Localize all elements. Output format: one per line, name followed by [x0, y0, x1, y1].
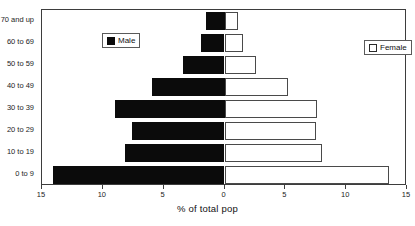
bar-row — [42, 98, 405, 120]
bar-female-70-and-up — [225, 12, 238, 30]
x-tick-mark — [406, 185, 407, 189]
y-axis-label-70-and-up: 70 and up — [1, 9, 34, 31]
bar-row — [42, 10, 405, 32]
bar-male-10-to-19 — [125, 144, 225, 162]
x-tick-label: 15 — [402, 190, 410, 199]
y-axis-label-10-to-19: 10 to 19 — [7, 141, 34, 163]
bar-male-60-to-69 — [201, 34, 224, 52]
x-axis-ticks: 15105051015 — [41, 185, 406, 190]
bar-female-10-to-19 — [225, 144, 322, 162]
x-tick-label: 15 — [37, 190, 45, 199]
bar-row — [42, 142, 405, 164]
bar-male-30-to-39 — [115, 100, 225, 118]
legend-male-swatch-icon — [107, 37, 115, 45]
y-axis-labels: 0 to 910 to 1920 to 2930 to 3940 to 4950… — [0, 9, 38, 185]
bar-male-50-to-59 — [183, 56, 224, 74]
y-axis-label-0-to-9: 0 to 9 — [15, 163, 34, 185]
plot-area: Male Female — [41, 9, 406, 185]
bar-female-20-to-29 — [225, 122, 316, 140]
x-tick-label: 0 — [221, 190, 225, 199]
x-tick-mark — [41, 185, 42, 189]
legend-female-swatch-icon — [369, 44, 377, 52]
bar-female-0-to-9 — [225, 166, 389, 184]
x-tick-label: 5 — [161, 190, 165, 199]
bar-male-70-and-up — [206, 12, 224, 30]
bar-rows — [42, 10, 405, 184]
x-tick-mark — [345, 185, 346, 189]
x-tick-label: 5 — [282, 190, 286, 199]
bar-row — [42, 32, 405, 54]
bar-row — [42, 54, 405, 76]
x-axis-title: % of total pop — [0, 203, 415, 214]
bar-female-60-to-69 — [225, 34, 243, 52]
x-tick-mark — [224, 185, 225, 189]
legend-male: Male — [102, 33, 140, 48]
bar-row — [42, 76, 405, 98]
population-pyramid-chart: 0 to 910 to 1920 to 2930 to 3940 to 4950… — [0, 0, 415, 226]
legend-male-label: Male — [118, 37, 135, 45]
bar-row — [42, 120, 405, 142]
x-tick-mark — [163, 185, 164, 189]
bar-female-30-to-39 — [225, 100, 317, 118]
y-axis-label-40-to-49: 40 to 49 — [7, 75, 34, 97]
x-tick-mark — [102, 185, 103, 189]
x-tick-label: 10 — [341, 190, 349, 199]
x-tick-label: 10 — [98, 190, 106, 199]
y-axis-label-20-to-29: 20 to 29 — [7, 119, 34, 141]
bar-male-0-to-9 — [53, 166, 225, 184]
bar-male-20-to-29 — [132, 122, 224, 140]
y-axis-label-30-to-39: 30 to 39 — [7, 97, 34, 119]
x-tick-mark — [284, 185, 285, 189]
y-axis-label-60-to-69: 60 to 69 — [7, 31, 34, 53]
bar-female-50-to-59 — [225, 56, 257, 74]
legend-female: Female — [364, 40, 412, 55]
y-axis-label-50-to-59: 50 to 59 — [7, 53, 34, 75]
bar-row — [42, 164, 405, 186]
bar-male-40-to-49 — [152, 78, 225, 96]
bar-female-40-to-49 — [225, 78, 288, 96]
legend-female-label: Female — [380, 44, 407, 52]
